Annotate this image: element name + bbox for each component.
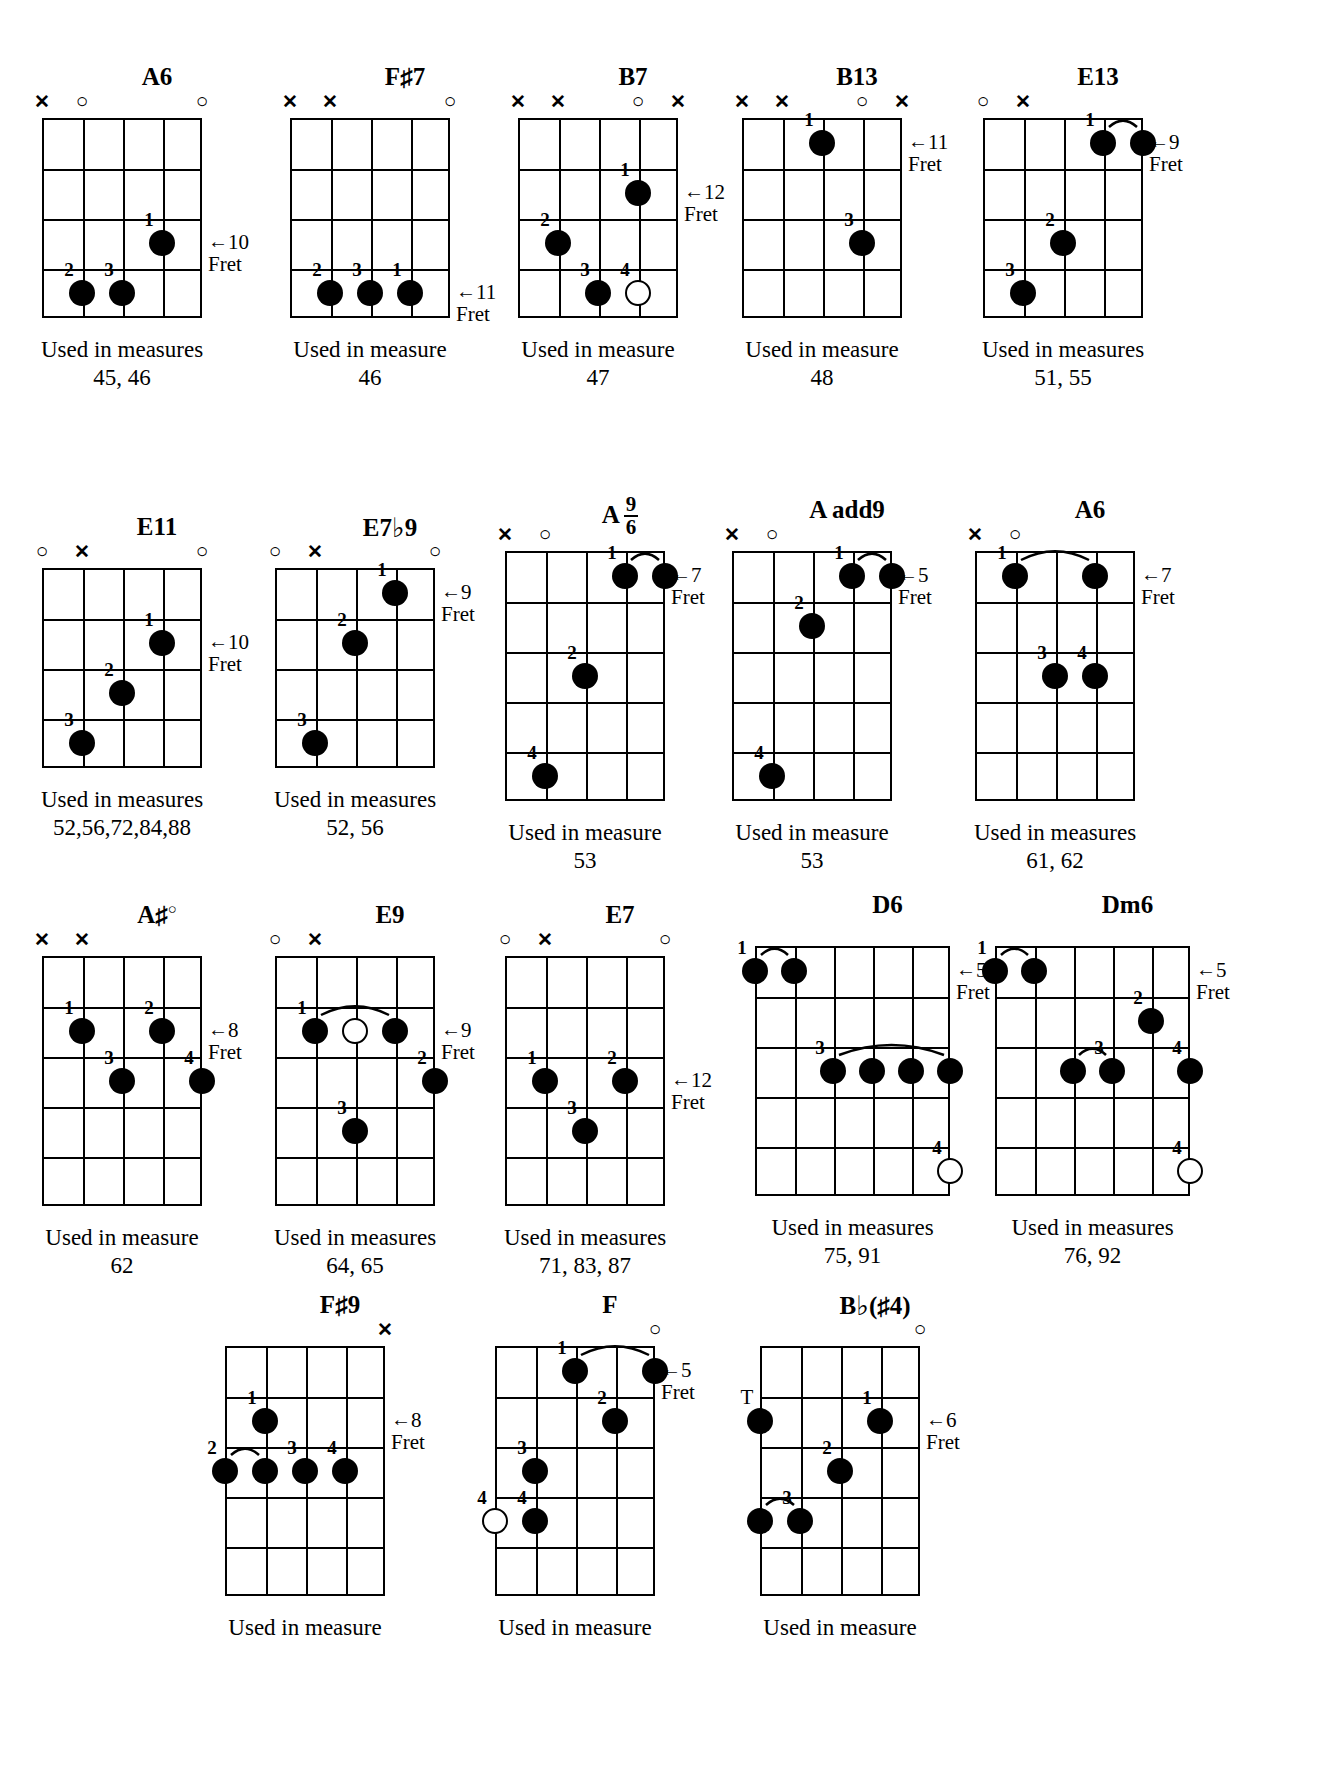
used-in-label: Used in measure <box>45 1225 198 1250</box>
used-in-label: Used in measures <box>504 1225 666 1250</box>
open-string-icon: ○ <box>659 930 672 949</box>
used-in-measures: 47 <box>478 364 718 392</box>
finger-number: 1 <box>607 543 617 562</box>
used-in-measures: 76, 92 <box>955 1242 1230 1270</box>
finger-number: 1 <box>557 1338 567 1357</box>
finger-dot <box>625 180 651 206</box>
open-string-icon: ○ <box>539 525 552 544</box>
fret-line <box>744 219 900 221</box>
fretboard-wrapper: ✕✕○✕13←11Fret <box>742 92 972 322</box>
fret-line <box>762 1447 918 1449</box>
fret-word: Fret <box>208 1041 242 1063</box>
finger-number: 4 <box>620 260 630 279</box>
finger-dot <box>397 280 423 306</box>
finger-dot <box>522 1508 548 1534</box>
string-line <box>316 958 318 1204</box>
finger-number: 3 <box>104 260 114 279</box>
fretboard-grid <box>275 568 435 768</box>
used-in-measures: 46 <box>250 364 490 392</box>
fret-word: Fret <box>456 303 496 325</box>
fret-line <box>997 1147 1188 1149</box>
open-string-icon: ○ <box>429 542 442 561</box>
used-in-caption: Used in measures45, 46 <box>2 336 242 392</box>
chord-name: A6 <box>975 495 1205 525</box>
fret-line <box>985 219 1141 221</box>
fret-line <box>507 1157 663 1159</box>
finger-dot <box>189 1068 215 1094</box>
finger-dot <box>1099 1058 1125 1084</box>
finger-dot <box>839 563 865 589</box>
used-in-measures: 71, 83, 87 <box>465 1252 705 1280</box>
finger-dot <box>747 1408 773 1434</box>
used-in-caption: Used in measures76, 92 <box>955 1214 1230 1270</box>
fret-position-label: ←10Fret <box>208 231 249 275</box>
finger-number: 1 <box>834 543 844 562</box>
chord-name: F♯9 <box>225 1290 455 1320</box>
fret-line <box>757 1047 948 1049</box>
fret-line <box>277 619 433 621</box>
finger-number: 3 <box>815 1038 825 1057</box>
fret-position-label: ←7Fret <box>1141 564 1175 608</box>
muted-string-icon: ✕ <box>74 542 90 561</box>
finger-number: 3 <box>337 1098 347 1117</box>
fretboard-wrapper: ○✕123←9Fret <box>983 92 1213 322</box>
finger-dot <box>382 1018 408 1044</box>
finger-dot <box>332 1458 358 1484</box>
finger-number: 3 <box>104 1048 114 1067</box>
fretboard-wrapper: ✕○○123←10Fret <box>42 92 272 322</box>
finger-number: 2 <box>207 1438 217 1457</box>
open-string-icon: ○ <box>76 92 89 111</box>
chord-diagram-b7-47: B7✕✕○✕1234←12FretUsed in measure47 <box>518 62 748 322</box>
finger-dot <box>849 230 875 256</box>
used-in-label: Used in measures <box>274 1225 436 1250</box>
fret-arrow-icon: ← <box>208 1018 228 1040</box>
fret-arrow-icon: ← <box>441 1018 461 1040</box>
used-in-measures: 61, 62 <box>935 847 1175 875</box>
fret-line <box>757 1147 948 1149</box>
finger-dot <box>422 1068 448 1094</box>
fretboard-wrapper: ✕1234←8Fret <box>225 1320 455 1600</box>
finger-number: 1 <box>804 110 814 129</box>
finger-number: 4 <box>527 743 537 762</box>
fret-position-label: ←5Fret <box>898 564 932 608</box>
used-in-caption: Used in measure <box>185 1614 425 1642</box>
fret-line <box>762 1547 918 1549</box>
finger-number: 2 <box>597 1388 607 1407</box>
fretboard-wrapper: ✕○134←7Fret <box>975 525 1205 805</box>
finger-number: 1 <box>377 560 387 579</box>
fret-word: Fret <box>684 203 725 225</box>
fret-line <box>997 997 1188 999</box>
finger-number: 1 <box>247 1388 257 1407</box>
used-in-caption: Used in measure47 <box>478 336 718 392</box>
fret-word: Fret <box>898 586 932 608</box>
string-markers: ✕ <box>225 1320 385 1342</box>
string-line <box>163 570 165 766</box>
used-in-label: Used in measures <box>41 337 203 362</box>
muted-string-icon: ✕ <box>510 92 526 111</box>
chord-name: F♯7 <box>290 62 520 92</box>
used-in-label: Used in measure <box>293 337 446 362</box>
open-string-icon: ○ <box>499 930 512 949</box>
fret-position-label: ←5Fret <box>1196 959 1230 1003</box>
fret-number: ←7 <box>1141 564 1175 586</box>
chord-name: E11 <box>42 512 272 542</box>
finger-dot <box>1060 1058 1086 1084</box>
open-string-icon: ○ <box>1009 525 1022 544</box>
used-in-measures: 52,56,72,84,88 <box>2 814 242 842</box>
used-in-label: Used in measures <box>41 787 203 812</box>
string-markers: ○✕○ <box>42 542 202 564</box>
string-line <box>881 1348 883 1594</box>
fretboard-grid <box>505 956 665 1206</box>
finger-number: 1 <box>620 160 630 179</box>
open-finger-dot <box>625 280 651 306</box>
fret-line <box>507 1007 663 1009</box>
finger-dot <box>602 1408 628 1434</box>
used-in-label: Used in measure <box>735 820 888 845</box>
fretboard-wrapper: ○✕○123←9Fret <box>275 542 505 772</box>
string-line <box>123 570 125 766</box>
string-markers: ✕○ <box>505 525 665 547</box>
finger-number: 1 <box>527 1048 537 1067</box>
fret-line <box>507 602 663 604</box>
open-string-icon: ○ <box>914 1320 927 1339</box>
finger-number: 4 <box>1077 643 1087 662</box>
